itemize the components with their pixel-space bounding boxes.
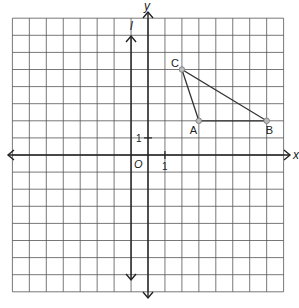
vertex-point-a [196,118,202,124]
y-tick-label: 1 [136,133,142,144]
x-axis-label: x [292,148,299,162]
coordinate-plane: ABC x y O 1 1 l [0,0,299,308]
triangle-abc: ABC [171,57,273,136]
vertex-label-b: B [266,124,273,136]
y-axis-label: y [143,0,151,13]
vertex-label-c: C [171,57,179,69]
vertex-label-a: A [190,124,198,136]
axes [8,12,290,298]
labels: x y O 1 1 l [130,0,299,172]
triangle-edges [182,70,267,121]
origin-label: O [134,158,143,170]
vertex-point-b [264,118,270,124]
vertex-point-c [179,67,185,73]
line-l-label: l [130,19,133,33]
x-tick-label: 1 [162,161,168,172]
